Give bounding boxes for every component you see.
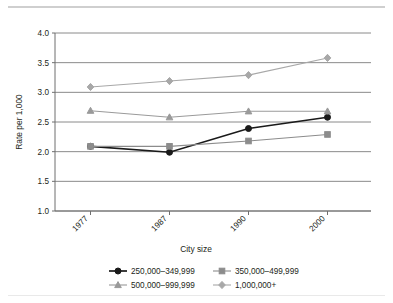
legend-label: 250,000–349,999 [131, 267, 195, 276]
y-axis-ticks: 1.01.52.02.53.03.54.0 [38, 29, 55, 216]
data-point-marker [219, 281, 226, 288]
series-line-0 [91, 117, 328, 152]
data-point-marker [219, 268, 225, 274]
y-axis-title: Rate per 1,000 [14, 94, 24, 150]
y-tick-label: 3.0 [38, 88, 50, 97]
series-layer [87, 54, 331, 155]
data-point-marker [325, 114, 331, 120]
data-point-marker [166, 77, 173, 84]
data-point-marker [87, 107, 94, 113]
y-tick-label: 4.0 [38, 29, 50, 38]
data-point-marker [246, 126, 252, 132]
data-point-marker [246, 138, 252, 144]
chart-legend: 250,000–349,999350,000–499,999500,000–99… [109, 267, 299, 290]
legend-label: 350,000–499,999 [235, 267, 299, 276]
y-tick-label: 2.0 [38, 148, 50, 157]
y-tick-label: 1.0 [38, 207, 50, 216]
data-point-marker [324, 54, 331, 61]
x-axis-ticks [91, 211, 328, 215]
data-point-marker [167, 149, 173, 155]
y-tick-label: 2.5 [38, 118, 50, 127]
legend-item[interactable]: 500,000–999,999 [109, 281, 195, 290]
gridlines [55, 33, 371, 211]
data-point-marker [245, 72, 252, 79]
legend-item[interactable]: 250,000–349,999 [109, 267, 195, 276]
legend-item[interactable]: 350,000–499,999 [213, 267, 299, 276]
series-line-2 [91, 111, 328, 118]
x-tick-label: 1990 [229, 214, 249, 234]
x-tick-label: 1977 [71, 214, 91, 234]
x-tick-label: 2000 [308, 214, 328, 234]
y-tick-label: 1.5 [38, 177, 50, 186]
x-axis-title: City size [180, 244, 212, 254]
data-point-marker [87, 83, 94, 90]
line-chart-figure: 1.01.52.02.53.03.54.0 1977198719902000 R… [0, 0, 393, 303]
legend-label: 1,000,000+ [235, 281, 276, 290]
legend-item[interactable]: 1,000,000+ [213, 281, 276, 290]
data-point-marker [88, 144, 94, 150]
data-point-marker [167, 144, 173, 150]
x-tick-label: 1987 [150, 214, 170, 234]
legend-label: 500,000–999,999 [131, 281, 195, 290]
y-tick-label: 3.5 [38, 59, 50, 68]
data-point-marker [325, 132, 331, 138]
x-axis-tick-labels: 1977198719902000 [71, 214, 328, 234]
chart-svg: 1.01.52.02.53.03.54.0 1977198719902000 R… [0, 0, 393, 303]
data-point-marker [115, 268, 121, 274]
